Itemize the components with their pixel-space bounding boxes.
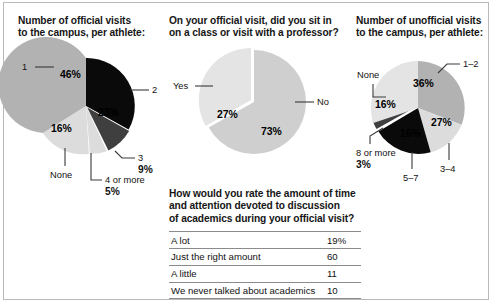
callout-3-4: 3–4 (440, 164, 456, 174)
callout-1-2: 1–2 (463, 59, 479, 69)
unofficial-visits-pie: 36% 27% 16% 16% 1–2 None 3–4 5–7 8 or mo… (356, 40, 493, 200)
callout-5-7: 5–7 (403, 173, 419, 183)
rating-value: 60 (321, 249, 361, 266)
callout-yes: Yes (173, 81, 189, 91)
label-46-percent: 46% (60, 69, 81, 80)
academics-rating-title: How would you rate the amount of timeand… (169, 188, 365, 225)
sit-in-class-chart: 27% 73% Yes No (169, 40, 339, 180)
unofficial-visits-chart: 36% 27% 16% 16% 1–2 None 3–4 5–7 8 or mo… (356, 40, 493, 200)
callout-4-or-more-percent: 5% (105, 186, 120, 197)
official-visits-chart: 46% 23% 16% 1 2 3 9% None 4 or more (18, 40, 170, 200)
label-27-percent: 27% (431, 117, 452, 128)
pie-slices (0, 37, 135, 154)
label-36-percent: 36% (413, 78, 434, 89)
panel-academics-rating: How would you rate the amount of timeand… (169, 188, 365, 299)
official-visits-title: Number of official visitsto the campus, … (18, 15, 170, 40)
label-16-percent: 16% (51, 123, 72, 134)
rating-label: Just the right amount (169, 249, 321, 266)
sit-in-class-pie: 27% 73% Yes No (169, 40, 339, 180)
label-16-percent-black: 16% (400, 128, 421, 139)
panel-sit-in-class: On your official visit, did you sit inon… (169, 15, 339, 180)
callout-4-or-more: 4 or more (105, 175, 145, 185)
academics-rating-table: A lot 19% Just the right amount 60 A lit… (169, 231, 361, 299)
leader-4-or-more (91, 153, 102, 180)
rating-label: A little (169, 265, 321, 282)
table-row: A lot 19% (169, 232, 361, 249)
panel-unofficial-visits: Number of unofficial visitsto the campus… (356, 15, 493, 200)
callout-3-percent: 9% (138, 164, 153, 175)
table-row: Just the right amount 60 (169, 249, 361, 266)
callout-none: None (50, 170, 72, 180)
rating-value: 10 (321, 282, 361, 299)
official-visits-pie: 46% 23% 16% 1 2 3 9% None 4 or more (18, 40, 170, 200)
label-73-percent: 73% (261, 126, 282, 137)
panel-official-visits: Number of official visitsto the campus, … (18, 15, 170, 200)
leader-3 (115, 151, 135, 158)
label-23-percent: 23% (98, 107, 119, 118)
callout-3: 3 (138, 153, 143, 163)
unofficial-visits-title: Number of unofficial visitsto the campus… (356, 15, 493, 40)
callout-2: 2 (152, 85, 157, 95)
callout-no: No (317, 97, 329, 107)
figure-frame: Number of official visitsto the campus, … (3, 2, 489, 300)
rating-label: We never talked about academics (169, 282, 321, 299)
rating-value: 19% (321, 232, 361, 249)
rating-label: A lot (169, 232, 321, 249)
callout-8-or-more-percent: 3% (356, 159, 371, 170)
table-row: We never talked about academics 10 (169, 282, 361, 299)
label-16-percent-none: 16% (375, 99, 396, 110)
table-row: A little 11 (169, 265, 361, 282)
label-27-percent: 27% (217, 109, 238, 120)
sit-in-class-title: On your official visit, did you sit inon… (169, 15, 339, 40)
rating-value: 11 (321, 265, 361, 282)
callout-1: 1 (22, 62, 27, 72)
callout-none: None (357, 70, 379, 80)
callout-8-or-more: 8 or more (356, 148, 396, 158)
pie-slices (199, 48, 306, 154)
